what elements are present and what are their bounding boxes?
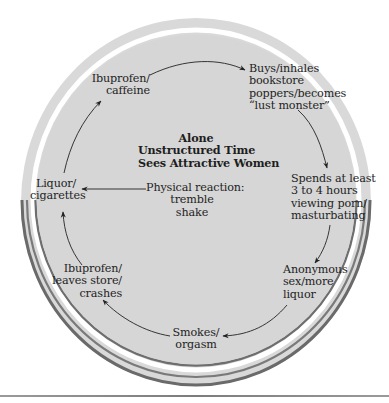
node-ibuprofen-leaves: Ibuprofen/ leaves store/ crashes <box>52 263 122 300</box>
node-buys-poppers: Buys/inhales bookstore poppers/becomes “… <box>249 63 349 113</box>
node-spends-hours: Spends at least 3 to 4 hours viewing por… <box>291 173 371 223</box>
node-ibuprofen-caffeine: Ibuprofen/ caffeine <box>90 73 150 98</box>
node-liquor-cigarettes: Liquor/ cigarettes <box>30 178 82 203</box>
trigger-node: Physical reaction: tremble shake <box>146 182 238 219</box>
cycle-diagram: Alone Unstructured Time Sees Attractive … <box>0 0 389 403</box>
node-smokes-orgasm: Smokes/ orgasm <box>166 327 226 352</box>
center-context: Alone Unstructured Time Sees Attractive … <box>138 132 254 169</box>
node-anonymous-sex: Anonymous sex/more liquor <box>283 264 353 301</box>
bottom-divider <box>0 395 389 397</box>
